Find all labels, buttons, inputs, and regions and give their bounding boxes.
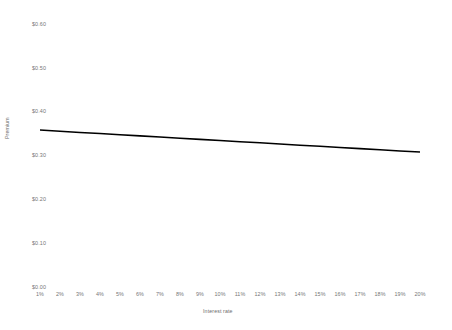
x-tick-label: 20%	[410, 291, 430, 297]
x-tick-label: 7%	[150, 291, 170, 297]
x-tick-label: 8%	[170, 291, 190, 297]
x-tick-label: 13%	[270, 291, 290, 297]
y-tick-label: $0.40	[16, 108, 46, 114]
x-tick-label: 6%	[130, 291, 150, 297]
x-tick-label: 17%	[350, 291, 370, 297]
plot-area	[0, 0, 452, 330]
x-tick-label: 5%	[110, 291, 130, 297]
y-tick-label: $0.20	[16, 196, 46, 202]
premium-series-line	[40, 130, 420, 152]
x-tick-label: 14%	[290, 291, 310, 297]
x-tick-label: 2%	[50, 291, 70, 297]
y-tick-label: $0.10	[16, 240, 46, 246]
x-tick-label: 4%	[90, 291, 110, 297]
x-tick-label: 16%	[330, 291, 350, 297]
y-axis-title: Premium	[4, 117, 10, 139]
y-tick-label: $0.60	[16, 21, 46, 27]
x-tick-label: 3%	[70, 291, 90, 297]
y-tick-label: $0.00	[16, 284, 46, 290]
y-tick-label: $0.50	[16, 65, 46, 71]
x-tick-label: 1%	[30, 291, 50, 297]
y-tick-label: $0.30	[16, 152, 46, 158]
x-tick-label: 12%	[250, 291, 270, 297]
x-tick-label: 19%	[390, 291, 410, 297]
x-tick-label: 9%	[190, 291, 210, 297]
x-tick-label: 15%	[310, 291, 330, 297]
x-tick-label: 11%	[230, 291, 250, 297]
x-axis-title: Interest rate	[203, 308, 233, 314]
x-tick-label: 10%	[210, 291, 230, 297]
premium-vs-interest-rate-line-chart: Premium $0.60$0.50$0.40$0.30$0.20$0.10$0…	[0, 0, 452, 330]
x-tick-label: 18%	[370, 291, 390, 297]
